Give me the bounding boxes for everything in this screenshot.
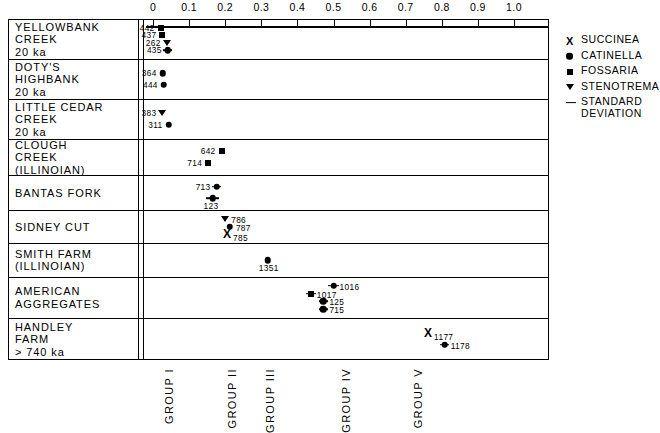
axis-tick-label-2: 0.2 [217,1,233,13]
group-label-3: GROUP III [264,368,276,433]
axis-tick-label-6: 0.6 [362,1,378,13]
axis-tick-label-8: 0.8 [434,1,450,13]
data-point-label-713: 713 [196,182,211,192]
legend-label: STENOTREMA [581,80,659,92]
row-label: AMERICAN AGGREGATES [15,285,100,310]
data-point-label-435: 435 [147,45,162,55]
data-point-785: X [223,228,231,240]
data-point-label-383: 383 [141,108,156,118]
data-point-label-787: 787 [236,223,251,233]
data-point-1177: X [424,327,432,339]
data-point-714 [205,160,211,166]
data-point-label-311: 311 [148,120,162,130]
row-separator [8,210,549,211]
legend-row-fossaria: FOSSARIA [566,64,660,80]
axis-tick-label-9: 0.9 [470,1,486,13]
data-point-label-715: 715 [329,305,344,315]
data-point-713 [213,184,220,191]
succinea-symbol: X [566,35,578,47]
label-column-divider-left [138,19,139,360]
data-point-262 [163,40,171,46]
row-separator [8,243,549,244]
data-point-442 [158,25,164,31]
row-label: HANDLEY FARM > 740 ka [15,321,73,359]
group-label-2: GROUP II [226,368,238,429]
data-point-label-364: 364 [142,68,157,78]
stenotrema-symbol [566,84,578,90]
data-point-642 [219,148,225,154]
data-point-label-785: 785 [233,233,248,243]
row-label: CLOUGH CREEK (ILLINOIAN) [15,139,85,177]
legend-label: SUCCINEA [581,33,640,45]
data-point-label-1016: 1016 [340,282,360,292]
group-label-1: GROUP I [163,368,175,424]
data-point-383 [158,110,166,116]
data-point-311 [165,122,172,129]
row-separator [8,277,549,278]
legend-row-catinella: CATINELLA [566,49,660,65]
data-point-125 [320,298,327,305]
data-point-715 [320,306,327,313]
row-label: DOTY'S HIGHBANK 20 ka [15,61,80,99]
data-point-label-1178: 1178 [451,341,470,351]
legend-row-succinea: XSUCCINEA [566,33,660,49]
row-label: BANTAS FORK [15,187,102,200]
row-label: LITTLE CEDAR CREEK 20 ka [15,101,103,139]
legend-label: FOSSARIA [581,64,639,76]
axis-tick-label-7: 0.7 [398,1,414,13]
std-deviation-symbol [566,102,578,104]
axis-tick-label-3: 0.3 [253,1,269,13]
legend-row-standard: STANDARD DEVIATION [566,95,660,121]
legend-label: STANDARD DEVIATION [581,95,642,119]
row-separator [8,59,549,60]
row-label: SIDNEY CUT [15,221,90,234]
group-label-5: GROUP V [412,368,424,428]
data-point-1017 [308,291,314,297]
axis-tick-label-1: 0.1 [181,1,197,13]
data-point-435 [165,47,172,54]
row-label: SMITH FARM (ILLINOIAN) [15,248,92,273]
data-point-label-714: 714 [187,158,202,168]
legend-label: CATINELLA [581,49,642,61]
data-point-364 [159,70,166,77]
data-point-1178 [441,342,448,349]
row-separator [8,318,549,319]
legend-row-stenotrema: STENOTREMA [566,80,660,96]
fossaria-symbol [566,69,578,75]
row-separator [8,139,549,140]
legend: XSUCCINEACATINELLAFOSSARIASTENOTREMASTAN… [566,33,660,121]
data-point-label-1351: 1351 [259,263,279,273]
group-label-4: GROUP IV [340,368,352,433]
data-point-label-444: 444 [143,80,158,90]
data-point-786 [221,216,229,222]
axis-tick-label-5: 0.5 [326,1,342,13]
data-point-1016 [330,283,337,290]
data-point-444 [161,82,168,89]
row-separator [8,175,549,176]
catinella-symbol [566,53,578,60]
axis-tick-label-0: 0 [150,1,156,13]
row-label: YELLOWBANK CREEK 20 ka [15,21,100,59]
axis-tick-label-10: 1.0 [506,1,522,13]
data-point-label-642: 642 [201,146,216,156]
axis-tick-label-4: 0.4 [289,1,305,13]
